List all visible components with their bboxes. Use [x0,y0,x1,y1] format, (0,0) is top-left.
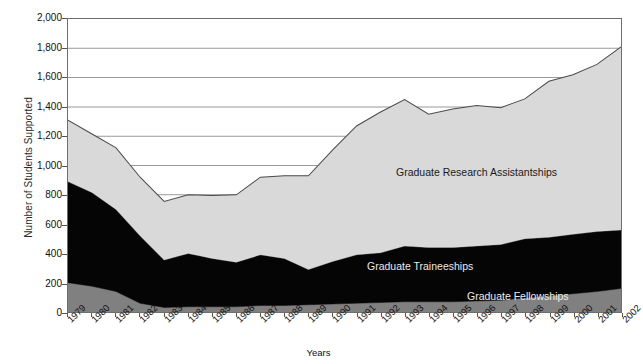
y-axis-tick-label: 2,000 [26,13,62,23]
y-axis-tick-label: 200 [26,279,62,289]
series-label-graduate-fellowships: Graduate Fellowships [467,290,569,302]
series-label-graduate-research-assistantships: Graduate Research Assistantships [396,166,557,178]
y-axis-tick-mark [62,136,67,137]
y-axis-tick-label: 800 [26,190,62,200]
y-axis-tick-mark [62,77,67,78]
x-axis-tick-labels: 1979198019811982198319841985198619871988… [0,313,637,347]
y-axis-tick-label: 400 [26,249,62,259]
y-axis-tick-label: 1,000 [26,161,62,171]
y-axis-tick-mark [62,225,67,226]
y-axis-tick-mark [62,284,67,285]
x-axis-title: Years [0,347,637,358]
y-axis-tick-mark [62,313,67,314]
y-axis-tick-mark [62,195,67,196]
y-axis-tick-mark [62,18,67,19]
y-axis-tick-label: 1,600 [26,72,62,82]
y-axis-tick-mark [62,166,67,167]
y-axis-tick-mark [62,48,67,49]
y-axis-tick-labels: 2,0001,8001,6001,4001,2001,0008006004002… [20,0,62,364]
x-axis-tick-label: 2002 [620,302,643,325]
y-axis-tick-label: 1,400 [26,102,62,112]
y-axis-tick-mark [62,254,67,255]
y-axis-tick-label: 1,200 [26,131,62,141]
series-label-graduate-traineeships: Graduate Traineeships [367,260,473,272]
y-axis-tick-label: 600 [26,220,62,230]
y-axis-tick-mark [62,107,67,108]
area-band-graduate-research-assistantships [68,47,621,270]
y-axis-tick-label: 1,800 [26,43,62,53]
